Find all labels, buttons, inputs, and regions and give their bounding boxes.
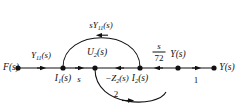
branch-label-s: s xyxy=(77,75,81,84)
fraction-denominator: 72 xyxy=(153,53,166,63)
signal-flow-graph-figure: F(s) I1(s) U2(s) I2(s) Y(s) Y(s) Y11(s) … xyxy=(0,0,242,112)
node-dot-yo[interactable] xyxy=(211,65,216,70)
node-label-y-output: Y(s) xyxy=(219,63,234,73)
node-label-f: F(s) xyxy=(3,63,19,73)
branch-label-s-y11: sY11(s) xyxy=(89,21,113,31)
branch-label-neg-z2: −Z2(s) xyxy=(105,74,129,84)
node-label-i2: I2(s) xyxy=(132,74,148,84)
node-dot-ys[interactable] xyxy=(175,65,180,70)
node-dot-u2[interactable] xyxy=(92,65,97,70)
node-label-i1: I1(s) xyxy=(55,74,71,84)
branch-label-s-over-72: s 72 xyxy=(153,42,166,63)
node-dot-i1[interactable] xyxy=(60,65,65,70)
branch-label-y11: Y11(s) xyxy=(31,51,51,61)
node-label-y-s: Y(s) xyxy=(170,50,185,60)
branch-label-two: 2 xyxy=(114,90,119,99)
node-label-u2: U2(s) xyxy=(87,48,107,58)
fraction-numerator: s xyxy=(153,42,166,52)
node-dot-i2[interactable] xyxy=(137,65,142,70)
branch-label-one: 1 xyxy=(194,76,199,85)
